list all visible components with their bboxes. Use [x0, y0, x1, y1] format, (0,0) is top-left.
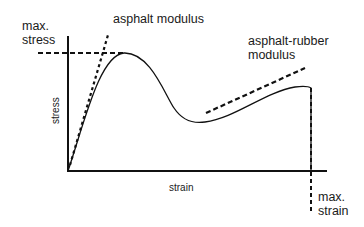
- max-stress-label-line2: stress: [22, 33, 55, 47]
- max-strain-label-line2: strain: [318, 204, 349, 218]
- asphalt-modulus-label: asphalt modulus: [113, 12, 204, 26]
- y-axis-label: stress: [50, 97, 61, 124]
- asphalt-rubber-modulus-label: asphalt-rubber modulus: [248, 34, 329, 62]
- x-axis-label: strain: [169, 182, 193, 194]
- asphalt-rubber-label-line1: asphalt-rubber: [248, 34, 329, 48]
- max-stress-label: max. stress: [22, 19, 55, 47]
- max-strain-label: max. strain: [318, 190, 349, 218]
- max-stress-label-line1: max.: [22, 19, 55, 33]
- asphalt-rubber-modulus-tangent: [206, 68, 305, 113]
- max-strain-label-line1: max.: [318, 190, 349, 204]
- asphalt-rubber-label-line2: modulus: [248, 48, 329, 62]
- stress-strain-curve: [68, 53, 311, 171]
